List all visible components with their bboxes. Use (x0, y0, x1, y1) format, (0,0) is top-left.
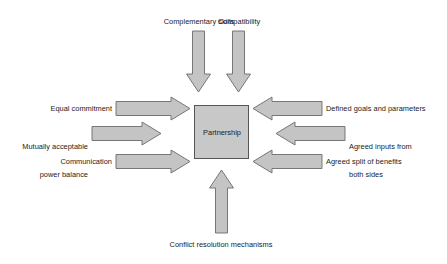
arrow-compatibility (227, 31, 251, 92)
arrow-complementary-skills (187, 31, 211, 92)
label-agreed-split-of-benefits: Agreed split of benefits (326, 157, 436, 166)
arrow-agreed-split-of-benefits (253, 150, 322, 173)
arrow-conflict-resolution-mechanisms (210, 170, 234, 233)
label-line-2: power balance (8, 170, 88, 179)
partnership-diagram: Partnership Complementary skills Compati… (0, 0, 447, 264)
arrow-equal-commitment (116, 97, 190, 120)
label-line-1: Mutually acceptable (8, 142, 88, 151)
label-conflict-resolution-mechanisms: Conflict resolution mechanisms (141, 240, 301, 249)
label-compatibility: Compatibility (200, 17, 278, 26)
center-box-label: Partnership (194, 128, 250, 137)
arrow-defined-goals-and-parameters (253, 97, 322, 120)
arrow-mutually-acceptable-power-balance (92, 122, 161, 145)
label-defined-goals-and-parameters: Defined goals and parameters (326, 104, 446, 113)
label-communication: Communication (30, 157, 112, 166)
label-line-2: both sides (349, 170, 445, 179)
label-line-1: Agreed inputs from (349, 142, 445, 151)
label-equal-commitment: Equal commitment (20, 104, 112, 113)
arrow-agreed-inputs-from-both-sides (276, 122, 345, 145)
arrow-communication (116, 150, 190, 173)
